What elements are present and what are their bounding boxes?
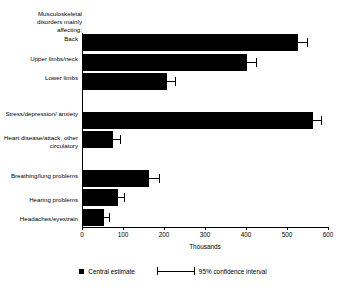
- plot-area: 0100200300400500600: [82, 33, 328, 227]
- group-heading: Musculoskeletal disorders mainly affecti…: [22, 10, 82, 35]
- bar: [82, 54, 247, 71]
- error-bar: [158, 81, 176, 82]
- x-axis-tick: [82, 227, 83, 230]
- bar-row: [82, 188, 328, 207]
- legend-error-bar-icon: [157, 267, 195, 275]
- legend-item-central-estimate: Central estimate: [79, 268, 135, 275]
- legend-label-confidence-interval: 95% confidence interval: [199, 268, 267, 275]
- error-bar: [106, 139, 121, 140]
- chart-root: Musculoskeletal disorders mainly affecti…: [0, 0, 346, 296]
- bar-row: [82, 208, 328, 227]
- x-axis-tick-label: 500: [272, 231, 302, 239]
- error-bar: [288, 42, 308, 43]
- legend-label-central-estimate: Central estimate: [88, 268, 135, 275]
- bar: [82, 73, 167, 90]
- error-bar: [237, 62, 257, 63]
- error-bar: [99, 217, 110, 218]
- legend-item-confidence-interval: 95% confidence interval: [157, 267, 267, 275]
- category-label-lower-limbs: Lower limbs: [2, 74, 78, 82]
- error-bar: [304, 120, 322, 121]
- x-axis-tick: [205, 227, 206, 230]
- x-axis-tick-label: 300: [190, 231, 220, 239]
- category-label-headaches-eyestrain: Headaches/eyestrain: [2, 215, 78, 223]
- bar-row: [82, 130, 328, 149]
- category-label-breathing-lung-problems: Breathing/lung problems: [2, 172, 78, 180]
- x-axis-title: Thousands: [82, 243, 328, 250]
- x-axis-tick-label: 200: [149, 231, 179, 239]
- x-axis-tick: [123, 227, 124, 230]
- x-axis-tick: [328, 227, 329, 230]
- x-axis-tick-label: 400: [231, 231, 261, 239]
- error-bar: [112, 197, 126, 198]
- bar-row: [82, 33, 328, 52]
- bar-row: [82, 72, 328, 91]
- x-axis-tick-label: 100: [108, 231, 138, 239]
- error-bar: [139, 178, 160, 179]
- x-axis-tick-label: 0: [67, 231, 97, 239]
- category-label-upper-limbs-neck: Upper limbs/neck: [2, 55, 78, 63]
- chart-legend: Central estimate 95% confidence interval: [0, 267, 346, 275]
- legend-swatch-icon: [79, 269, 84, 274]
- bar-row: [82, 111, 328, 130]
- bar: [82, 112, 313, 129]
- category-label-heart-disease: Heart disease/attack, other circulatory: [2, 134, 78, 149]
- bar: [82, 34, 298, 51]
- category-label-back: Back: [2, 35, 78, 43]
- bar-row: [82, 52, 328, 71]
- x-axis-tick: [287, 227, 288, 230]
- category-label-stress-depression-anxiety: Stress/depression/ anxiety: [2, 110, 78, 118]
- x-axis-tick: [164, 227, 165, 230]
- x-axis-tick: [246, 227, 247, 230]
- bar-row: [82, 169, 328, 188]
- category-label-hearing-problems: Hearing problems: [2, 196, 78, 204]
- x-axis-tick-label: 600: [313, 231, 343, 239]
